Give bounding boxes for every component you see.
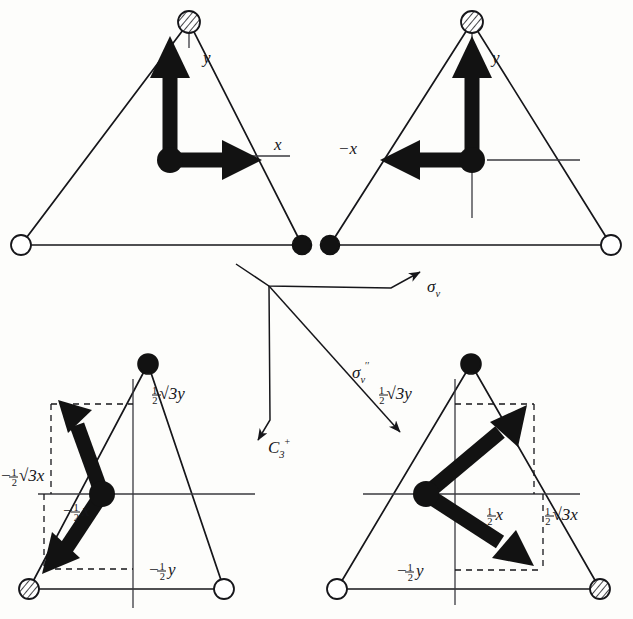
negative-half-y-label: −12y <box>396 561 424 583</box>
negative-x-axis-label: −x <box>338 139 357 158</box>
vertex-bottom-left-hatched <box>19 579 39 599</box>
vertex-bottom-left-open <box>11 235 31 255</box>
negative-half-root3-x-label: −12√3x <box>0 466 45 488</box>
symmetry-operation-figure: y x y −x <box>0 0 633 619</box>
svg-text:−12√3x: −12√3x <box>0 466 45 488</box>
origin-dot <box>459 147 485 173</box>
half-root3-x-label: 12√3x <box>545 505 578 527</box>
vertex-top-hatched <box>178 11 200 33</box>
vertex-top-filled <box>138 354 158 374</box>
vertex-bottom-left-open <box>327 579 347 599</box>
half-root3-y-label: 12√3y <box>379 384 412 406</box>
negative-half-y-label: −12y <box>148 560 176 582</box>
vertex-bottom-left-filled <box>321 236 340 255</box>
vertex-top-hatched <box>461 11 483 33</box>
origin-dot <box>413 481 439 507</box>
y-axis-label: y <box>201 48 211 67</box>
origin-dot <box>157 147 183 173</box>
vertex-bottom-right-open <box>214 579 234 599</box>
vertex-top-filled <box>461 354 481 374</box>
x-axis-label: x <box>273 135 282 154</box>
page-background <box>0 0 633 619</box>
half-root3-y-label: 12√3y <box>152 384 185 406</box>
vertex-bottom-right-open <box>601 235 621 255</box>
vertex-bottom-right-filled <box>293 236 312 255</box>
origin-dot <box>89 481 115 507</box>
y-axis-label: y <box>490 48 500 67</box>
vertex-bottom-right-hatched <box>590 579 610 599</box>
half-x-label: 12x <box>487 505 504 527</box>
negative-half-x-label: −12x <box>62 501 90 523</box>
